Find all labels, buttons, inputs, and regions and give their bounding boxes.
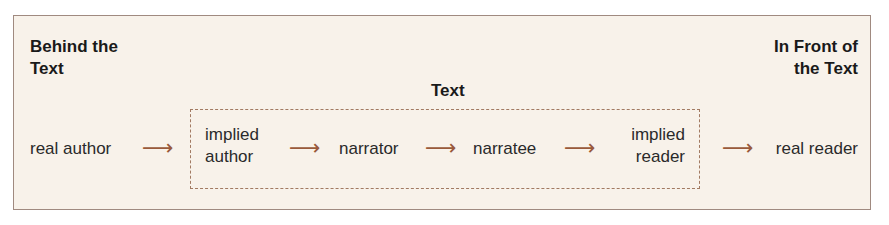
- header-line: In Front of: [774, 36, 858, 58]
- node-real-author: real author: [30, 138, 111, 160]
- arrow-icon: ⟶: [722, 137, 754, 159]
- arrow-icon: ⟶: [142, 137, 174, 159]
- node-line: author: [205, 146, 259, 168]
- behind-the-text-header: Behind the Text: [30, 36, 118, 80]
- node-line: implied: [619, 124, 685, 146]
- node-narrator: narrator: [339, 138, 399, 160]
- header-line: Text: [30, 58, 118, 80]
- header-line: the Text: [774, 58, 858, 80]
- in-front-of-text-header: In Front of the Text: [774, 36, 858, 80]
- node-narratee: narratee: [473, 138, 536, 160]
- arrow-icon: ⟶: [289, 137, 321, 159]
- arrow-icon: ⟶: [425, 137, 457, 159]
- node-implied-author: implied author: [205, 124, 259, 168]
- text-header: Text: [431, 80, 465, 102]
- node-line: implied: [205, 124, 259, 146]
- arrow-icon: ⟶: [564, 137, 596, 159]
- communication-model-panel: Behind the Text Text In Front of the Tex…: [13, 15, 871, 210]
- node-real-reader: real reader: [776, 138, 858, 160]
- node-implied-reader: implied reader: [619, 124, 685, 168]
- header-line: Behind the: [30, 36, 118, 58]
- node-line: reader: [619, 146, 685, 168]
